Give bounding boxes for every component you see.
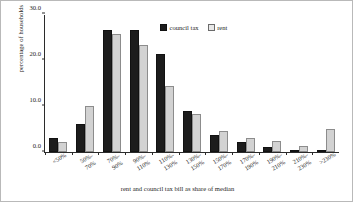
x-axis-tick-labels: <50%50%- 70%70%- 90%90%- 110%110%- 130%1… [44,155,339,171]
legend-label-council-tax: council tax [170,24,199,31]
bar-rent [192,114,201,152]
y-axis-tick-label: 0.0 [33,142,45,149]
bar-council-tax [237,142,246,152]
bar-group [125,15,152,152]
bar-rent [326,129,335,152]
legend-swatch-icon-council-tax [160,24,167,31]
y-axis-tick-label: 30.0 [29,4,45,11]
bar-groups [45,15,339,152]
y-axis-tick-mark [42,13,45,14]
y-axis-title: percentage of households [17,0,24,104]
legend-label-rent: rent [217,24,227,31]
bar-council-tax [183,111,192,152]
bar-group [72,15,99,152]
bar-rent [85,106,94,152]
bar-group [98,15,125,152]
bar-rent [139,45,148,152]
bar-council-tax [156,54,165,152]
bar-council-tax [210,135,219,152]
plot-area: 0.010.020.030.0 [44,15,339,153]
bar-council-tax [263,147,272,152]
y-axis-tick-label: 10.0 [29,96,45,103]
bar-council-tax [49,138,58,152]
legend-item-council-tax: council tax [160,24,199,31]
bar-group [179,15,206,152]
bar-rent [165,86,174,152]
bar-group [45,15,72,152]
x-axis-title: rent and council tax bill as share of me… [1,185,353,192]
y-axis-tick-label: 20.0 [29,50,45,57]
bar-council-tax [76,124,85,152]
bar-council-tax [317,150,326,152]
bar-group [312,15,339,152]
bar-group [259,15,286,152]
chart-legend: council tax rent [160,24,227,31]
bar-council-tax [130,30,139,152]
bar-group [205,15,232,152]
bar-rent [112,34,121,152]
bar-group [152,15,179,152]
bar-group [232,15,259,152]
bar-group [286,15,313,152]
legend-item-rent: rent [208,24,228,31]
bar-council-tax [290,150,299,152]
legend-swatch-icon-rent [208,24,215,31]
bar-council-tax [103,30,112,152]
chart-figure: percentage of households 0.010.020.030.0… [0,0,353,202]
